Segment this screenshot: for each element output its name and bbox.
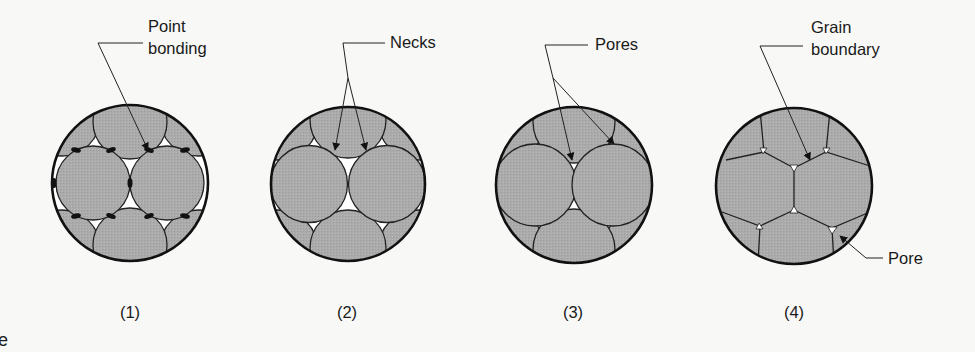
label-pores: Pores bbox=[595, 34, 638, 54]
label-grain: Grain bbox=[811, 17, 851, 37]
stage-2-particles bbox=[238, 80, 458, 290]
label-bonding: bonding bbox=[148, 38, 207, 58]
caption-stage-3: (3) bbox=[543, 302, 603, 322]
caption-stage-1: (1) bbox=[100, 302, 160, 322]
label-necks: Necks bbox=[390, 32, 436, 52]
caption-stage-2: (2) bbox=[317, 302, 377, 322]
stage-4-grains bbox=[716, 108, 872, 264]
label-point: Point bbox=[148, 16, 186, 36]
caption-stage-4: (4) bbox=[764, 302, 824, 322]
label-boundary: boundary bbox=[811, 39, 880, 59]
label-pore: Pore bbox=[888, 248, 923, 268]
cropped-text-fragment: e bbox=[0, 330, 8, 350]
stage-3-particles bbox=[458, 74, 690, 296]
